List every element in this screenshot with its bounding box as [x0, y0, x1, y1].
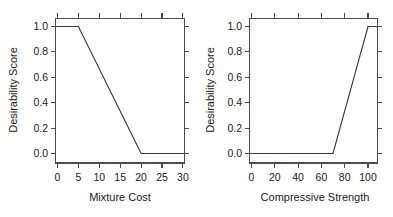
desirability-curve-mixture-cost: [56, 27, 185, 154]
panel-mixture-cost: Desirability Score 0.0 0.2 0.4 0.6 0.8 1…: [0, 0, 196, 217]
y-tick-label: 0.4: [33, 96, 48, 108]
x-tick-label: 25: [156, 171, 168, 183]
x-tick-label: 80: [339, 171, 351, 183]
x-tick-label: 0: [55, 171, 61, 183]
y-tick-label: 0.2: [33, 122, 48, 134]
x-tick-label: 60: [316, 171, 328, 183]
x-tick-label: 0: [249, 171, 255, 183]
y-tick-label: 0.8: [33, 45, 48, 57]
x-tick-label: 5: [75, 171, 81, 183]
desirability-curve-compressive-strength: [250, 27, 378, 154]
x-axis-title-right: Compressive Strength: [261, 191, 370, 203]
x-tick-label: 20: [269, 171, 281, 183]
compressive-strength-plot: Desirability Score 0.0 0.2 0.4 0.6 0.8 1…: [197, 0, 393, 217]
y-tick-label: 1.0: [227, 20, 242, 32]
x-axis-title-left: Mixture Cost: [89, 191, 151, 203]
y-tick-label: 0.0: [33, 147, 48, 159]
y-tick-label: 1.0: [33, 20, 48, 32]
plot-frame: [250, 19, 378, 164]
y-tick-label: 0.4: [227, 96, 242, 108]
x-tick-label: 30: [177, 171, 189, 183]
y-tick-label: 0.6: [33, 71, 48, 83]
y-tick-label: 0.2: [227, 122, 242, 134]
panel-compressive-strength: Desirability Score 0.0 0.2 0.4 0.6 0.8 1…: [197, 0, 393, 217]
y-tick-label: 0.0: [227, 147, 242, 159]
x-tick-label: 20: [135, 171, 147, 183]
y-axis-title-right: Desirability Score: [204, 47, 216, 133]
y-tick-label: 0.8: [227, 45, 242, 57]
y-tick-label: 0.6: [227, 71, 242, 83]
desirability-figure: Desirability Score 0.0 0.2 0.4 0.6 0.8 1…: [0, 0, 393, 217]
y-axis-title-left: Desirability Score: [7, 47, 19, 133]
x-tick-label: 10: [93, 171, 105, 183]
x-tick-label: 40: [292, 171, 304, 183]
x-tick-label: 100: [359, 171, 377, 183]
plot-frame: [56, 19, 185, 164]
x-tick-label: 15: [114, 171, 126, 183]
mixture-cost-plot: Desirability Score 0.0 0.2 0.4 0.6 0.8 1…: [0, 0, 196, 217]
